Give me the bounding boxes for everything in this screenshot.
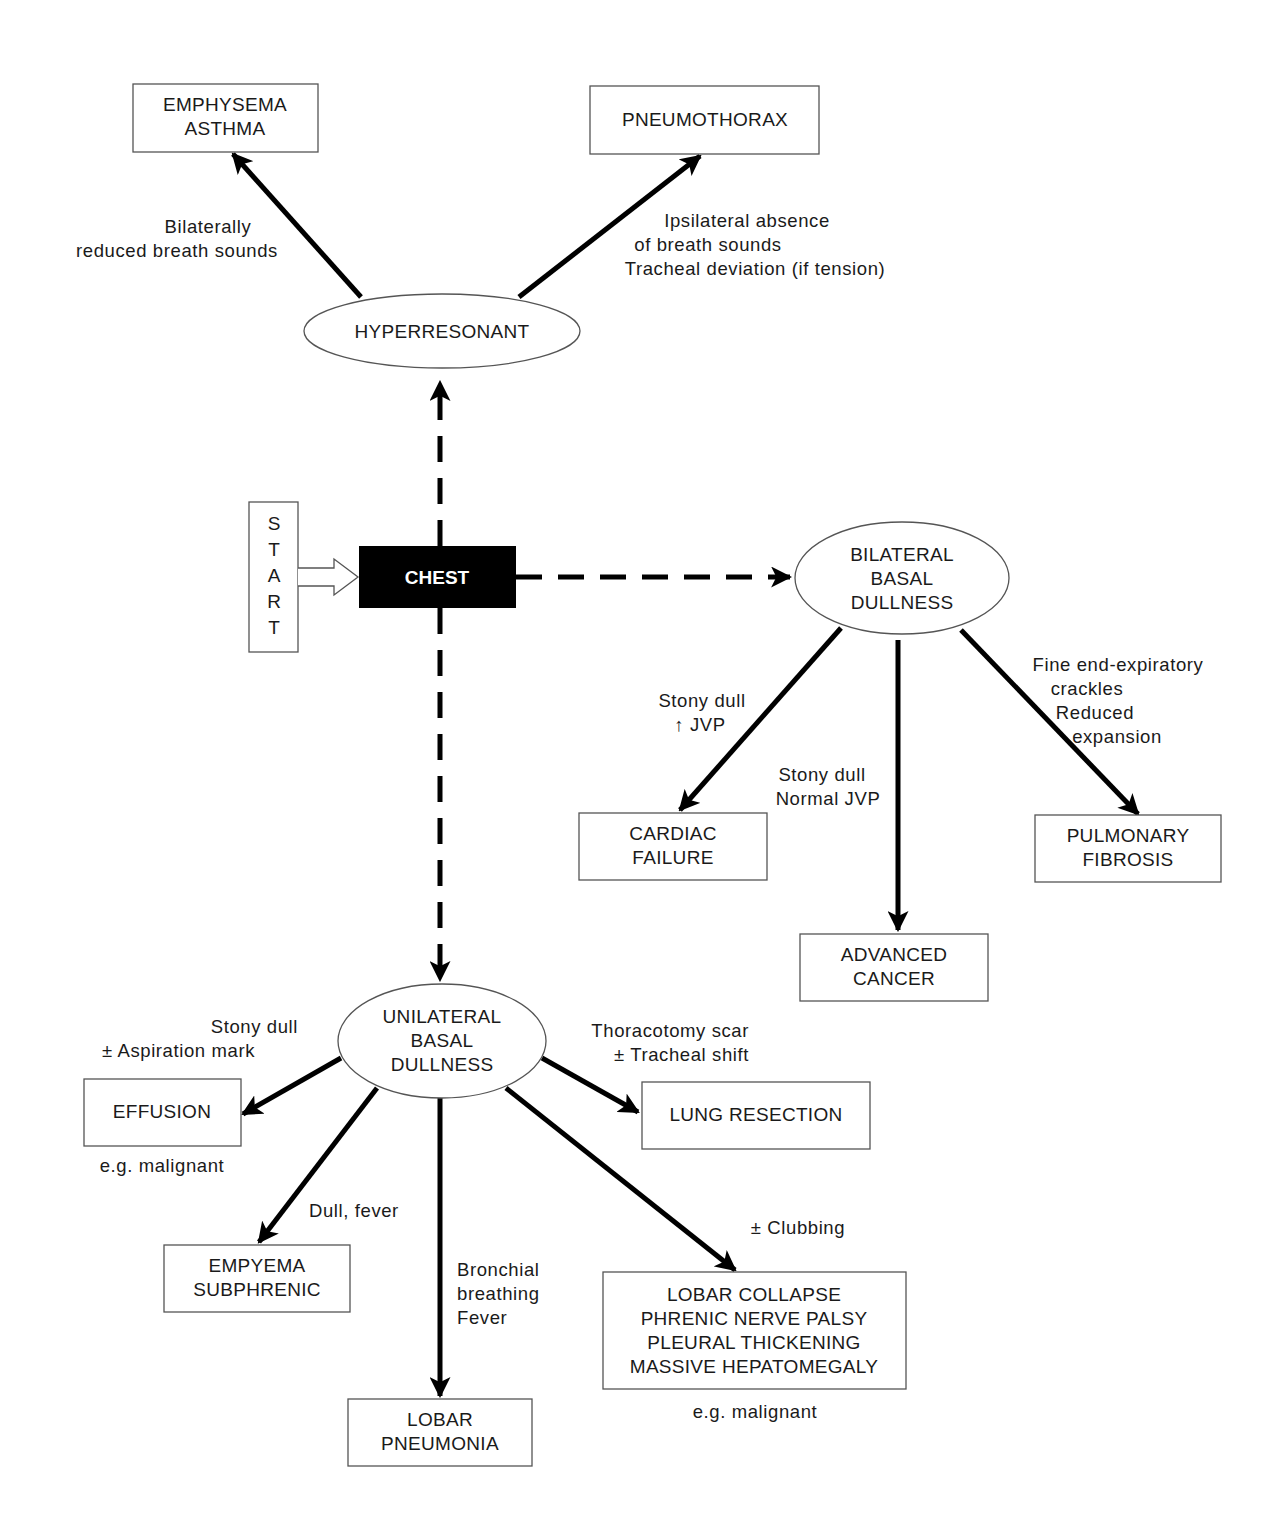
node-lung-resection[interactable]: LUNG RESECTION	[642, 1082, 870, 1149]
start-letter: S	[268, 513, 281, 534]
edge-label-line: of breath sounds	[634, 234, 781, 255]
node-pneumothorax[interactable]: PNEUMOTHORAX	[590, 86, 819, 154]
flowchart-canvas: S T A R T CHEST HYPERRESONANT EMPHYSEMA …	[0, 0, 1286, 1539]
node-line: PHRENIC NERVE PALSY	[641, 1308, 868, 1329]
node-line: BASAL	[871, 568, 934, 589]
node-line: PNEUMOTHORAX	[622, 109, 788, 130]
node-bilateral-basal-dullness[interactable]: BILATERAL BASAL DULLNESS	[795, 522, 1009, 634]
node-line: LOBAR	[407, 1409, 473, 1430]
node-line: CANCER	[853, 968, 935, 989]
node-line: BASAL	[411, 1030, 474, 1051]
edge-label-line: Tracheal deviation (if tension)	[625, 258, 886, 279]
lobar-collapse-note: e.g. malignant	[693, 1401, 818, 1422]
edge-label-dull-fever: Dull, fever	[309, 1200, 399, 1221]
node-line: FAILURE	[632, 847, 713, 868]
node-line: LOBAR COLLAPSE	[667, 1284, 841, 1305]
node-cardiac-failure[interactable]: CARDIAC FAILURE	[579, 813, 767, 880]
edge-label-thoracotomy: Thoracotomy scar ± Tracheal shift	[591, 1020, 749, 1065]
edge-label-line: Stony dull	[211, 1016, 298, 1037]
edge-label-line: Fine end-expiratory	[1033, 654, 1204, 675]
node-line: EFFUSION	[113, 1101, 211, 1122]
node-effusion[interactable]: EFFUSION	[84, 1079, 241, 1146]
hyperresonant-label: HYPERRESONANT	[355, 321, 530, 342]
node-line: DULLNESS	[851, 592, 954, 613]
node-line: LUNG RESECTION	[669, 1104, 842, 1125]
node-line: UNILATERAL	[383, 1006, 502, 1027]
edge-label-line: expansion	[1072, 726, 1162, 747]
edge-label-bronchial-breathing: Bronchial breathing Fever	[457, 1259, 540, 1328]
edge-label-line: Fever	[457, 1307, 507, 1328]
edge-label-line: Bilaterally	[165, 216, 252, 237]
edge-label-bilaterally: Bilaterally reduced breath sounds	[76, 216, 278, 261]
node-line: FIBROSIS	[1082, 849, 1173, 870]
node-line: PULMONARY	[1067, 825, 1190, 846]
node-hyperresonant[interactable]: HYPERRESONANT	[304, 294, 580, 368]
node-line: SUBPHRENIC	[193, 1279, 321, 1300]
edge-label-line: ↑ JVP	[674, 714, 725, 735]
edge-label-line: ± Clubbing	[751, 1217, 845, 1238]
start-indicator: S T A R T	[249, 502, 358, 652]
node-line: ADVANCED	[841, 944, 948, 965]
edge-label-stony-dull-jvp: Stony dull ↑ JVP	[658, 690, 745, 735]
node-line: ASTHMA	[185, 118, 266, 139]
edge-label-line: Stony dull	[658, 690, 745, 711]
edge-label-line: crackles	[1051, 678, 1124, 699]
start-letter: A	[268, 565, 281, 586]
node-pulmonary-fibrosis[interactable]: PULMONARY FIBROSIS	[1035, 815, 1221, 882]
node-line: PNEUMONIA	[381, 1433, 499, 1454]
edge-label-line: reduced breath sounds	[76, 240, 278, 261]
node-line: CARDIAC	[629, 823, 717, 844]
edge-label-ipsilateral: Ipsilateral absence of breath sounds Tra…	[625, 210, 886, 279]
edge-label-line: Dull, fever	[309, 1200, 399, 1221]
edge-label-line: Ipsilateral absence	[664, 210, 830, 231]
edge-label-line: Bronchial	[457, 1259, 540, 1280]
start-letter: R	[267, 591, 281, 612]
node-empyema-subphrenic[interactable]: EMPYEMA SUBPHRENIC	[164, 1245, 350, 1312]
edge-label-line: breathing	[457, 1283, 540, 1304]
edge-uni-resection	[542, 1058, 638, 1112]
start-arrow-icon	[298, 559, 358, 595]
edge-label-stony-dull-aspiration: Stony dull ± Aspiration mark	[102, 1016, 298, 1061]
edge-label-line: ± Tracheal shift	[614, 1044, 749, 1065]
edge-label-clubbing: ± Clubbing	[751, 1217, 845, 1238]
node-line: PLEURAL THICKENING	[647, 1332, 860, 1353]
edge-label-line: Stony dull	[778, 764, 865, 785]
node-line: EMPHYSEMA	[163, 94, 287, 115]
edge-label-line: ± Aspiration mark	[102, 1040, 255, 1061]
node-line: DULLNESS	[391, 1054, 494, 1075]
edge-label-line: Reduced	[1056, 702, 1134, 723]
chest-label: CHEST	[405, 567, 470, 588]
start-letter: T	[268, 539, 280, 560]
effusion-note: e.g. malignant	[100, 1155, 225, 1176]
start-letter: T	[268, 617, 280, 638]
node-line: MASSIVE HEPATOMEGALY	[630, 1356, 879, 1377]
node-lobar-pneumonia[interactable]: LOBAR PNEUMONIA	[348, 1399, 532, 1466]
node-advanced-cancer[interactable]: ADVANCED CANCER	[800, 934, 988, 1001]
node-unilateral-basal-dullness[interactable]: UNILATERAL BASAL DULLNESS	[338, 984, 546, 1098]
node-line: BILATERAL	[850, 544, 954, 565]
node-emphysema-asthma[interactable]: EMPHYSEMA ASTHMA	[133, 84, 318, 152]
node-chest[interactable]: CHEST	[359, 546, 516, 608]
edge-uni-effusion	[243, 1058, 341, 1114]
edge-label-line: Thoracotomy scar	[591, 1020, 749, 1041]
edge-label-line: Normal JVP	[776, 788, 881, 809]
edge-hyper-emphysema	[233, 154, 361, 297]
edge-label-stony-dull-normal-jvp: Stony dull Normal JVP	[776, 764, 881, 809]
node-lobar-collapse-group[interactable]: LOBAR COLLAPSE PHRENIC NERVE PALSY PLEUR…	[603, 1272, 906, 1389]
node-line: EMPYEMA	[208, 1255, 305, 1276]
